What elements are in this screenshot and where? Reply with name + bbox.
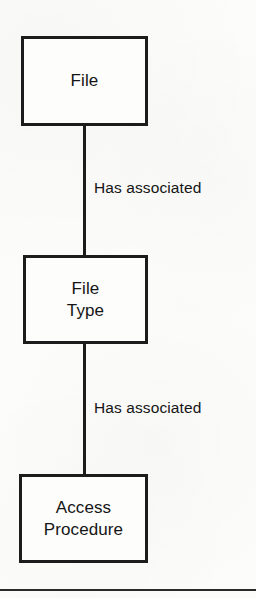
- entity-label-file-type: File Type: [67, 278, 104, 322]
- connector-file-type-to-access-procedure: [83, 344, 86, 474]
- connector-file-to-file-type: [83, 126, 86, 255]
- relationship-label-file-type-has-access-procedure: Has associated: [94, 398, 201, 418]
- entity-box-access-procedure[interactable]: Access Procedure: [19, 474, 148, 563]
- entity-box-file[interactable]: File: [21, 36, 148, 126]
- diagram-canvas: File Has associated File Type Has associ…: [0, 0, 256, 598]
- entity-label-file: File: [71, 70, 99, 92]
- relationship-label-file-has-file-type: Has associated: [94, 178, 201, 198]
- entity-box-file-type[interactable]: File Type: [23, 255, 148, 344]
- entity-label-access-procedure: Access Procedure: [44, 497, 123, 541]
- footer-divider-rule: [0, 589, 256, 591]
